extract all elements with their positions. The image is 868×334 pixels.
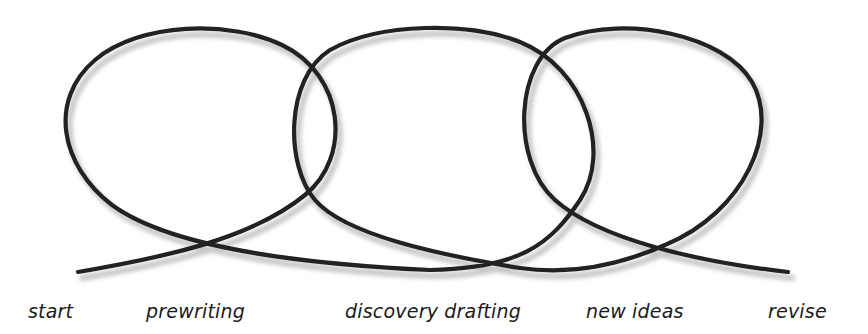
loop-shadow-group — [70, 34, 792, 278]
label-revise: revise — [768, 300, 827, 322]
loop-diagram — [0, 0, 868, 334]
label-discovery-drafting: discovery drafting — [345, 300, 521, 322]
label-prewriting: prewriting — [146, 300, 245, 322]
label-start: start — [28, 300, 73, 322]
label-new-ideas: new ideas — [586, 300, 684, 322]
process-loop-line — [66, 28, 788, 272]
